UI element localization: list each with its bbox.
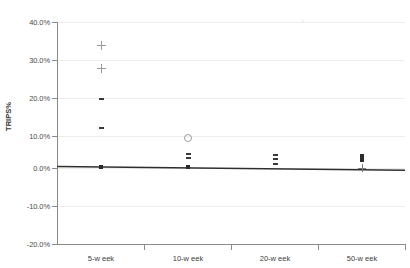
- y-tick-label-neg10: -10.0%: [2, 202, 50, 211]
- data-point-10week-baseline[interactable]: [186, 165, 190, 169]
- y-tick-mark-neg20: [52, 244, 57, 245]
- data-point-50week-plus[interactable]: [358, 164, 366, 172]
- y-tick-label-20: 20.0%: [2, 94, 50, 103]
- trend-line: [57, 22, 405, 244]
- y-tick-label-neg20: -20.0%: [2, 240, 50, 249]
- x-tick-mark-2: [231, 245, 232, 250]
- data-point-5week-dash-2[interactable]: [99, 127, 104, 129]
- data-point-10week-dash-1[interactable]: [186, 153, 191, 155]
- x-tick-label-20week: 20-w eek: [235, 254, 315, 263]
- data-point-20week-dash-1[interactable]: [273, 154, 278, 156]
- x-tick-mark-1: [144, 245, 145, 250]
- x-tick-mark-4: [405, 245, 406, 250]
- data-point-10week-dash-2[interactable]: [186, 157, 191, 159]
- y-tick-label-40: 40.0%: [2, 18, 50, 27]
- data-point-5week-plus-2[interactable]: [97, 64, 106, 73]
- y-tick-label-30: 30.0%: [2, 56, 50, 65]
- data-point-50week-square-2[interactable]: [360, 158, 364, 162]
- data-point-5week-dash-1[interactable]: [99, 98, 104, 100]
- x-tick-mark-3: [318, 245, 319, 250]
- x-tick-label-5week: 5-w eek: [61, 254, 141, 263]
- scatter-chart: TRIPS% 40.0% 30.0% 20.0% 10.0% 0.0% -10.…: [0, 0, 410, 268]
- data-point-20week-dash-3[interactable]: [273, 163, 278, 165]
- data-point-20week-dash-2[interactable]: [273, 158, 278, 160]
- data-point-5week-baseline[interactable]: [99, 165, 103, 169]
- data-point-10week-circle[interactable]: [184, 134, 192, 142]
- data-point-5week-plus-1[interactable]: [97, 41, 106, 50]
- y-tick-label-0: 0.0%: [2, 164, 50, 173]
- x-tick-label-50week: 50-w eek: [322, 254, 402, 263]
- y-tick-label-10: 10.0%: [2, 132, 50, 141]
- x-tick-label-10week: 10-w eek: [148, 254, 228, 263]
